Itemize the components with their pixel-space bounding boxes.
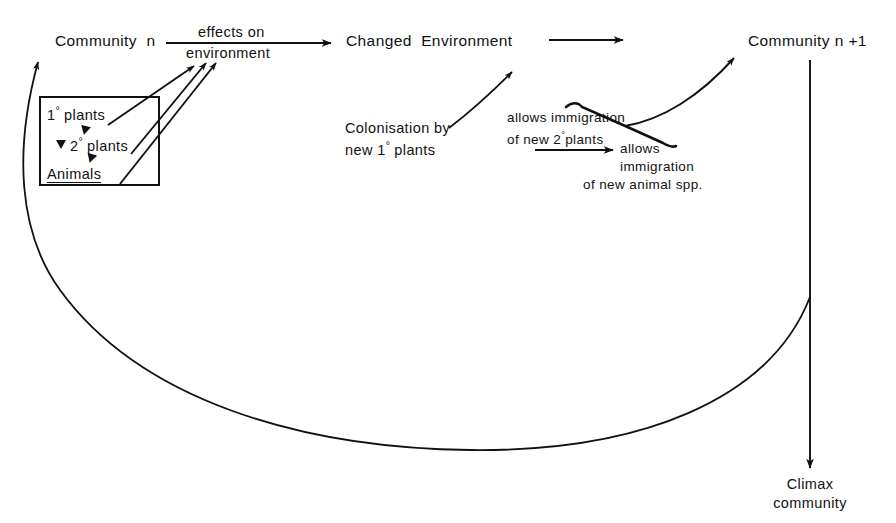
edge-label-colonisation-line1: Colonisation by	[345, 120, 450, 137]
allows-imm-plants-pre: of new 2	[507, 132, 561, 147]
node-climax-line2: community	[752, 495, 868, 512]
succession-diagram-canvas: Community n effects on environment Chang…	[0, 0, 896, 523]
animals-label: Animals	[47, 166, 101, 183]
node-community-n-plus-1: Community n +1	[748, 32, 867, 50]
allows-imm-plants-post: plants	[565, 132, 603, 147]
node-changed-environment: Changed Environment	[346, 32, 513, 50]
edge-label-allows-immigration-animals-line3: of new animal spp.	[583, 177, 703, 193]
primary-plants-text: plants	[60, 107, 106, 123]
colonisation-line2-post: plants	[390, 142, 436, 158]
box-item-primary-plants: 1° plants	[47, 105, 105, 124]
colonisation-line2-pre: new 1	[345, 142, 386, 158]
arrow-colonisation-to-changed-environment	[449, 72, 512, 128]
edge-label-allows-immigration-plants-line2: of new 2°plants	[507, 129, 604, 147]
edge-label-environment: environment	[186, 45, 270, 62]
edge-label-effects-on: effects on	[198, 24, 265, 41]
arrow-into-secondary-icon	[56, 140, 66, 149]
box-item-secondary-plants: 2° plants	[70, 136, 128, 155]
node-community-n: Community n	[55, 32, 155, 50]
edge-label-allows-immigration-animals-line2: immigration	[620, 159, 694, 175]
arrow-immigration-to-community-n-plus-1	[625, 58, 734, 126]
diagram-vector-layer	[0, 0, 896, 523]
secondary-plants-text: plants	[83, 138, 129, 154]
node-climax-line1: Climax	[760, 476, 860, 493]
edge-label-colonisation-line2: new 1° plants	[345, 140, 435, 159]
edge-label-allows-immigration-plants-line1: allows immigration	[507, 110, 625, 126]
edge-label-allows-immigration-animals-line1: allows	[620, 141, 660, 157]
box-item-animals: Animals	[47, 166, 101, 183]
